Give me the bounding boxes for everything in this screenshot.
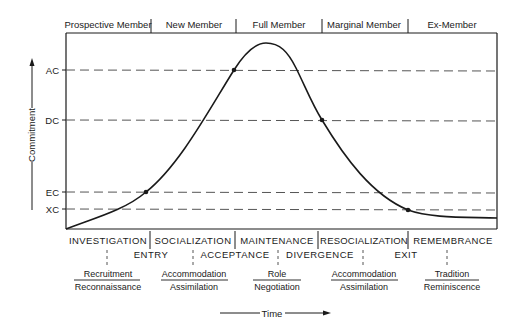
x-axis-label-group: Time [220, 308, 331, 319]
process-top-label: Accommodation [162, 269, 227, 279]
threshold-line-xc [66, 209, 497, 210]
group-socialization-diagram: Prospective Member New Member Full Membe… [0, 0, 512, 335]
y-axis-label: Commitment [26, 108, 37, 162]
process-socialization: Accommodation Assimilation [161, 269, 228, 292]
process-bottom-label: Reminiscence [424, 282, 481, 292]
phase-label-investigation: INVESTIGATION [69, 235, 147, 246]
threshold-line-ec [66, 192, 497, 193]
transition-points [144, 68, 411, 213]
role-label-marginal-member: Marginal Member [327, 19, 401, 30]
threshold-label-ac: AC [46, 65, 59, 76]
x-axis-label: Time [262, 308, 283, 319]
process-investigation: Recruitment Reconnaissance [74, 269, 141, 292]
process-bottom-label: Assimilation [170, 282, 218, 292]
arrow-up-icon [30, 58, 35, 66]
point-divergence-dc [320, 118, 325, 123]
threshold-lines [66, 70, 497, 210]
process-top-label: Recruitment [84, 269, 133, 279]
role-label-full-member: Full Member [253, 19, 306, 30]
role-header: Prospective Member New Member Full Membe… [64, 19, 497, 33]
plot-frame [66, 33, 497, 229]
threshold-label-ec: EC [46, 187, 59, 198]
phase-row: INVESTIGATION SOCIALIZATION MAINTENANCE … [69, 231, 493, 249]
y-axis-label-group: Commitment [26, 58, 37, 210]
process-top-label: Accommodation [332, 269, 397, 279]
transition-row: ENTRY ACCEPTANCE DIVERGENCE EXIT [107, 249, 447, 267]
process-remembrance: Tradition Reminiscence [424, 269, 481, 292]
threshold-line-ac [66, 70, 497, 71]
phase-label-maintenance: MAINTENANCE [240, 235, 314, 246]
threshold-label-dc: DC [45, 115, 59, 126]
process-bottom-label: Reconnaissance [75, 282, 142, 292]
process-resocialization: Accommodation Assimilation [331, 269, 398, 292]
point-exit-xc [406, 208, 411, 213]
point-acceptance-ac [232, 68, 237, 73]
role-label-prospective-member: Prospective Member [64, 19, 151, 30]
threshold-labels: AC DC EC XC [45, 65, 59, 215]
process-maintenance: Role Negotiation [253, 269, 301, 292]
phase-label-resocialization: RESOCIALIZATION [320, 235, 408, 246]
role-label-ex-member: Ex-Member [427, 19, 476, 30]
role-label-new-member: New Member [166, 19, 223, 30]
transition-label-exit: EXIT [394, 249, 417, 260]
process-top-label: Role [268, 269, 287, 279]
process-bottom-label: Negotiation [254, 282, 300, 292]
threshold-label-xc: XC [46, 204, 59, 215]
process-top-label: Tradition [435, 269, 470, 279]
process-labels: Recruitment Reconnaissance Accommodation… [74, 269, 480, 292]
threshold-line-dc [66, 120, 497, 121]
transition-label-acceptance: ACCEPTANCE [200, 249, 269, 260]
transition-label-divergence: DIVERGENCE [286, 249, 354, 260]
phase-label-remembrance: REMEMBRANCE [413, 235, 492, 246]
arrow-right-icon [323, 311, 331, 316]
process-bottom-label: Assimilation [340, 282, 388, 292]
phase-label-socialization: SOCIALIZATION [155, 235, 232, 246]
point-entry-ec [144, 190, 149, 195]
transition-label-entry: ENTRY [134, 249, 169, 260]
